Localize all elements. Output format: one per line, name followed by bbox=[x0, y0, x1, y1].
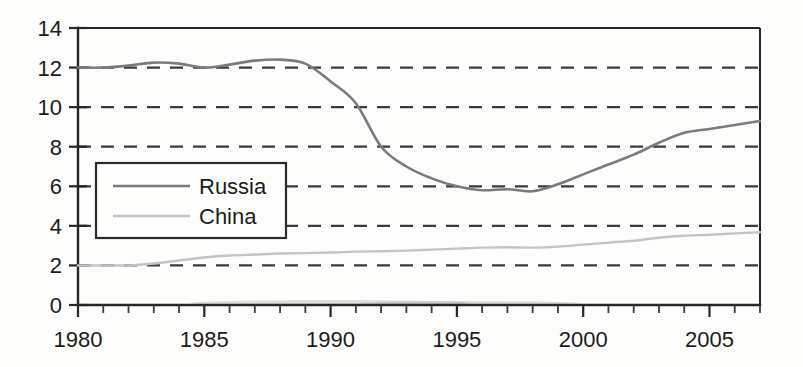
x-tick-label: 1990 bbox=[306, 327, 355, 352]
y-tick-label: 6 bbox=[50, 174, 62, 199]
x-tick-label: 1985 bbox=[180, 327, 229, 352]
y-tick-label: 0 bbox=[50, 293, 62, 318]
y-tick-label: 4 bbox=[50, 214, 62, 239]
y-tick-label: 2 bbox=[50, 253, 62, 278]
x-tick-label: 2000 bbox=[559, 327, 608, 352]
legend-label-russia: Russia bbox=[199, 174, 267, 199]
x-tick-label: 2005 bbox=[685, 327, 734, 352]
x-tick-label: 1995 bbox=[432, 327, 481, 352]
y-tick-label: 8 bbox=[50, 135, 62, 160]
legend-label-china: China bbox=[199, 204, 257, 229]
chart-figure: 02468101214 198019851990199520002005 Rus… bbox=[0, 0, 803, 367]
x-tick-label: 1980 bbox=[54, 327, 103, 352]
y-tick-label: 12 bbox=[38, 56, 62, 81]
y-tick-label: 10 bbox=[38, 95, 62, 120]
y-tick-label: 14 bbox=[38, 16, 62, 41]
chart-legend: Russia China bbox=[96, 163, 286, 238]
line-chart: 02468101214 198019851990199520002005 Rus… bbox=[0, 0, 803, 367]
